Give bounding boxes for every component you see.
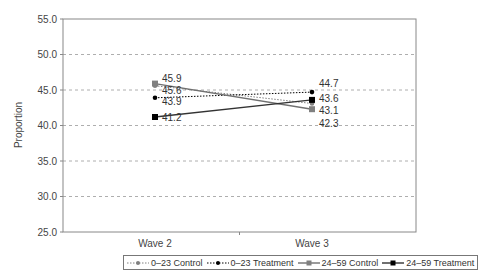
x-tick-wave-3: Wave 3 (295, 238, 329, 249)
marker-24-59-treatment-wave-3 (309, 97, 315, 103)
label-24-59-control-wave-3: 42.3 (319, 118, 339, 129)
marker-0-23-treatment-wave-3 (310, 90, 315, 95)
marker-24-59-control-wave-3 (309, 106, 315, 112)
label-24-59-treatment-wave-2: 41.2 (162, 112, 182, 123)
y-tick-labels: 55.0 50.0 45.0 40.0 35.0 30.0 25.0 (38, 14, 58, 238)
legend-label: 24–59 Treatment (406, 258, 474, 268)
y-tick-35: 35.0 (38, 156, 58, 167)
y-tick-50: 50.0 (38, 49, 58, 60)
y-axis-title: Proportion (13, 102, 24, 148)
legend-label: 24–59 Control (322, 258, 379, 268)
solid-square-marker-icon (298, 259, 320, 267)
label-0-23-control-wave-2: 45.6 (162, 85, 182, 96)
y-tick-55: 55.0 (38, 14, 58, 25)
marker-0-23-treatment-wave-2 (153, 96, 158, 101)
y-tick-40: 40.0 (38, 120, 58, 131)
y-tick-25: 25.0 (38, 227, 58, 238)
legend-item-24-59-treatment: 24–59 Treatment (382, 258, 474, 268)
x-tick-wave-2: Wave 2 (138, 238, 172, 249)
y-axis-ticks (60, 19, 240, 235)
legend-item-0-23-control: 0–23 Control (127, 258, 203, 268)
y-tick-45: 45.0 (38, 85, 58, 96)
marker-24-59-control-wave-2 (152, 81, 158, 87)
label-0-23-treatment-wave-3: 44.7 (319, 78, 339, 89)
gridlines (63, 55, 416, 197)
legend-item-0-23-treatment: 0–23 Treatment (207, 258, 294, 268)
label-0-23-treatment-wave-2: 43.9 (162, 96, 182, 107)
label-24-59-control-wave-2: 45.9 (162, 73, 182, 84)
y-tick-30: 30.0 (38, 191, 58, 202)
dotted-circle-marker-icon (127, 259, 149, 267)
marker-24-59-treatment-wave-2 (152, 114, 158, 120)
legend: 0–23 Control 0–23 Treatment 24–59 Contro… (123, 255, 478, 270)
solid-square-marker-icon (382, 259, 404, 267)
label-24-59-treatment-wave-3: 43.6 (319, 93, 339, 104)
dotted-circle-marker-icon (207, 259, 229, 267)
legend-label: 0–23 Treatment (231, 258, 294, 268)
legend-item-24-59-control: 24–59 Control (298, 258, 379, 268)
label-0-23-control-wave-3: 43.1 (319, 105, 339, 116)
legend-label: 0–23 Control (151, 258, 203, 268)
